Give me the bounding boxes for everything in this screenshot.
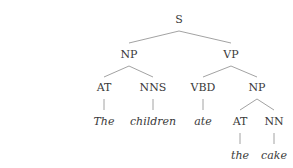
edge-s-np [129,31,179,43]
edge-np-at-object [240,99,257,110]
word-the-upper: The [94,115,115,128]
node-at-object: AT [232,115,248,128]
parse-tree: S NP VP AT NNS VBD NP AT NN The children… [0,0,293,168]
edge-vp-vbd [203,66,231,77]
word-the-lower: the [231,149,250,162]
node-nns: NNS [140,81,167,94]
node-at-subject: AT [96,81,112,94]
word-children: children [130,115,176,128]
word-ate: ate [194,115,212,128]
edge-vp-np [231,66,257,77]
node-np-subject: NP [120,48,138,61]
node-vp: VP [222,48,239,61]
edge-np-at [104,66,129,77]
node-nn: NN [264,115,284,128]
node-np-object: NP [248,81,266,94]
node-s: S [175,13,183,26]
word-cake: cake [261,149,287,162]
node-vbd: VBD [190,81,216,94]
edge-np-nns [129,66,153,77]
edge-s-vp [179,31,231,43]
edge-np-nn [257,99,274,110]
